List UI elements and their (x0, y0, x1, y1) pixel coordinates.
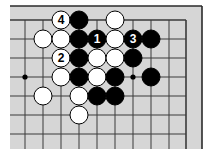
black-stone-body (106, 68, 124, 86)
black-stone: 1 (88, 30, 106, 48)
white-stone-body (52, 30, 70, 48)
white-stone: 4 (52, 11, 70, 29)
white-stone (106, 11, 124, 29)
black-stone-body (106, 87, 124, 105)
black-stone (106, 87, 124, 105)
black-stone (70, 11, 88, 29)
white-stone-body (70, 106, 88, 124)
white-stone-body (88, 68, 106, 86)
black-stone (88, 87, 106, 105)
white-stone-body (34, 87, 52, 105)
black-stone (106, 68, 124, 86)
black-stone-body (142, 68, 160, 86)
white-stone-body (88, 49, 106, 67)
black-stone (70, 49, 88, 67)
move-number-label: 3 (130, 32, 137, 46)
star-point (130, 74, 135, 79)
white-stone: 2 (52, 49, 70, 67)
white-stone (52, 30, 70, 48)
white-stone-body (106, 30, 124, 48)
move-number-label: 1 (94, 32, 101, 46)
black-stone-body (142, 30, 160, 48)
white-stone (52, 68, 70, 86)
white-stone (70, 87, 88, 105)
black-stone (142, 30, 160, 48)
black-stone (70, 30, 88, 48)
white-stone-body (70, 87, 88, 105)
black-stone (124, 49, 142, 67)
black-stone (70, 68, 88, 86)
white-stone (70, 106, 88, 124)
white-stone-body (106, 49, 124, 67)
black-stone-body (88, 87, 106, 105)
black-stone (142, 68, 160, 86)
white-stone (88, 68, 106, 86)
black-stone: 3 (124, 30, 142, 48)
black-stone-body (124, 49, 142, 67)
black-stone-body (70, 49, 88, 67)
move-number-label: 4 (58, 13, 65, 27)
white-stone-body (34, 30, 52, 48)
white-stone (34, 87, 52, 105)
move-number-label: 2 (58, 51, 65, 65)
white-stone (34, 30, 52, 48)
black-stone-body (70, 68, 88, 86)
black-stone-body (70, 30, 88, 48)
white-stone (106, 30, 124, 48)
white-stone (88, 49, 106, 67)
white-stone-body (106, 11, 124, 29)
white-stone (106, 49, 124, 67)
star-point (22, 74, 27, 79)
white-stone-body (52, 68, 70, 86)
go-board: 4132 (0, 0, 209, 158)
black-stone-body (70, 11, 88, 29)
